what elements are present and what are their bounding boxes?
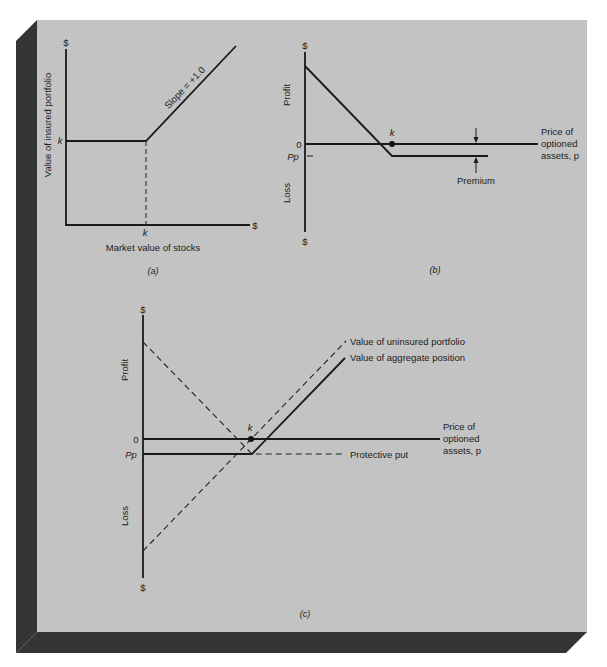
panel-b-y-axis-top-dollar: $ [302, 40, 308, 51]
panel-c-profit-label: Profit [119, 359, 130, 382]
panel-b-loss-label: Loss [281, 183, 292, 203]
panel-a-y-axis-title: Value of insured portfolio [42, 73, 53, 177]
panel-a-y-axis-dollar: $ [63, 37, 69, 48]
panel-b-x-axis-title-line3: assets, p [541, 150, 579, 161]
panel-c-y-axis-bottom-dollar: $ [140, 582, 146, 593]
panel-c-aggregate-label: Value of aggregate position [350, 352, 465, 363]
panel-a-x-axis-dollar: $ [252, 220, 258, 231]
panel-c-x-axis-title-line2: optioned [443, 433, 479, 444]
panel-c-pp-label: Pp [125, 449, 137, 460]
panel-c-loss-label: Loss [119, 506, 130, 526]
panel-c-protective-put-label: Protective put [350, 449, 408, 460]
protective-put-figure: $ $ Value of insured portfolio k Slope =… [0, 0, 607, 667]
panel-c-y-axis-top-dollar: $ [140, 304, 146, 315]
panel-c-uninsured-label: Value of uninsured portfolio [350, 336, 465, 347]
bottom-shadow-bar [16, 632, 587, 653]
panel-c-x-axis-title-line3: assets, p [443, 445, 481, 456]
figure-panel-background [37, 20, 587, 632]
panel-a-caption: (a) [148, 266, 159, 276]
panel-b-zero-label: 0 [296, 139, 301, 150]
panel-c-zero-label: 0 [133, 434, 138, 445]
panel-b-profit-label: Profit [281, 84, 292, 107]
panel-b-premium-label: Premium [457, 175, 495, 186]
panel-b-caption: (b) [430, 265, 441, 275]
panel-a-x-axis-title: Market value of stocks [106, 242, 201, 253]
panel-b-k-dot [389, 141, 395, 147]
left-shadow-bar [16, 20, 37, 653]
panel-c-k-dot [248, 436, 254, 442]
panel-b-x-axis-title-line2: optioned [541, 138, 577, 149]
panel-c-x-axis-title-line1: Price of [443, 421, 476, 432]
panel-b-pp-label: Pp [287, 151, 299, 162]
panel-b-x-axis-title-line1: Price of [541, 126, 574, 137]
panel-c-caption: (c) [300, 609, 311, 619]
panel-b-y-axis-bottom-dollar: $ [302, 236, 308, 247]
